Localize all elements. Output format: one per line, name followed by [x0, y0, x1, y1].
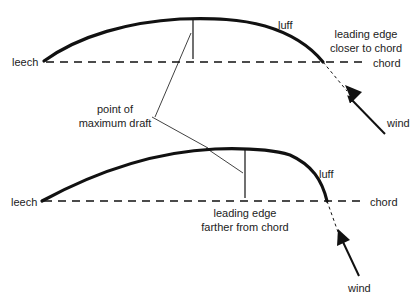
bottom-wind-label: wind	[348, 281, 371, 295]
bottom-leading-edge-label: leading edge farther from chord	[195, 206, 295, 234]
bottom-wind-arrow	[343, 242, 359, 276]
bottom-luff-extension	[327, 201, 338, 232]
bottom-sail-curve	[42, 149, 327, 201]
top-leech-label: leech	[12, 55, 38, 69]
draft-label: point of maximum draft	[75, 102, 155, 130]
top-leading-edge-label: leading edge closer to chord	[316, 27, 416, 55]
top-wind-label: wind	[387, 116, 410, 130]
bottom-leech-label: leech	[11, 195, 37, 209]
top-wind-arrowhead-icon	[345, 85, 362, 102]
draft-pointer-lines	[152, 33, 243, 173]
top-chord-label: chord	[373, 56, 401, 70]
top-luff-label: luff	[278, 18, 292, 32]
bottom-luff-label: luff	[319, 167, 333, 181]
bottom-chord-label: chord	[370, 195, 398, 209]
top-luff-extension	[323, 62, 347, 91]
top-wind-arrow	[350, 98, 385, 134]
